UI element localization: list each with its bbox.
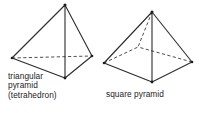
triangular-pyramid-caption: triangular pyramid (tetrahedron) [8, 72, 57, 100]
square-pyramid-vertex-left [103, 62, 106, 65]
square-pyramid-figure [103, 11, 194, 84]
triangular-pyramid-caption-line-3: (tetrahedron) [8, 91, 57, 100]
geometry-diagram: triangular pyramid (tetrahedron) square … [0, 0, 199, 113]
triangular-pyramid-vertex-right [91, 55, 94, 58]
triangular-pyramid-vertex-left [11, 57, 14, 60]
triangular-pyramid-body-fill [12, 5, 92, 78]
square-pyramid-vertex-apex [151, 11, 154, 14]
square-pyramid-caption: square pyramid [106, 90, 164, 99]
square-pyramid-vertex-right [191, 61, 194, 64]
square-pyramid-vertex-front [151, 81, 154, 84]
triangular-pyramid-vertex-front [64, 77, 67, 80]
square-pyramid-caption-line-1: square pyramid [106, 90, 164, 99]
triangular-pyramid-figure [11, 4, 94, 80]
triangular-pyramid-vertex-apex [64, 4, 67, 7]
